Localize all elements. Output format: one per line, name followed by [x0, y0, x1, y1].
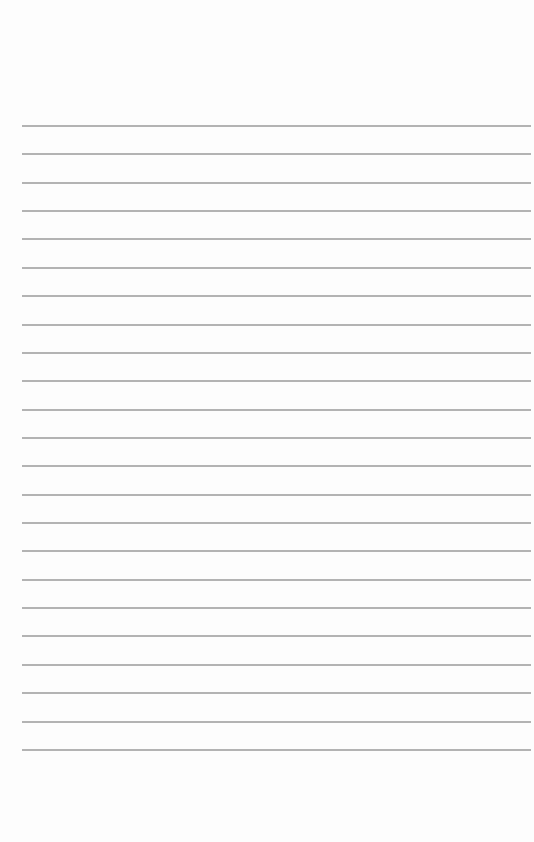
- ruled-line: [22, 380, 531, 382]
- ruled-line: [22, 465, 531, 467]
- lined-paper-sheet: [0, 0, 534, 842]
- ruled-line: [22, 579, 531, 581]
- ruled-line: [22, 437, 531, 439]
- ruled-line: [22, 409, 531, 411]
- ruled-line: [22, 635, 531, 637]
- ruled-line: [22, 550, 531, 552]
- ruled-line: [22, 324, 531, 326]
- ruled-line: [22, 749, 531, 751]
- ruled-line: [22, 295, 531, 297]
- ruled-line: [22, 267, 531, 269]
- ruled-line: [22, 522, 531, 524]
- ruled-line: [22, 238, 531, 240]
- ruled-line: [22, 664, 531, 666]
- ruled-line: [22, 210, 531, 212]
- ruled-line: [22, 607, 531, 609]
- ruled-line: [22, 153, 531, 155]
- ruled-line: [22, 692, 531, 694]
- ruled-line: [22, 352, 531, 354]
- ruled-line: [22, 125, 531, 127]
- ruled-line: [22, 721, 531, 723]
- ruled-line: [22, 494, 531, 496]
- ruled-line: [22, 182, 531, 184]
